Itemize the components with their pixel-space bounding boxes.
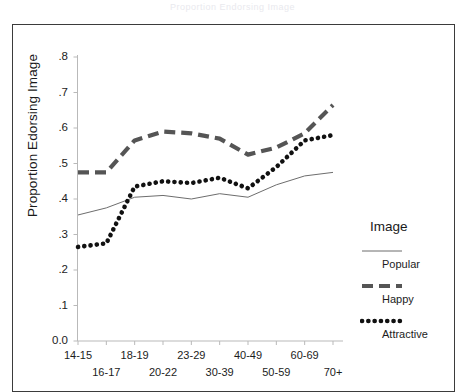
- x-axis-tick-label: 23-29: [168, 349, 214, 361]
- y-axis-tick-label: .5: [42, 157, 68, 169]
- x-axis-tick-label: 70+: [310, 366, 356, 378]
- y-axis-tick-label: .4: [42, 192, 68, 204]
- y-axis-tick-label: .2: [42, 263, 68, 275]
- x-axis-tick-label: 16-17: [83, 366, 129, 378]
- y-axis-tick-label: .8: [42, 50, 68, 62]
- x-axis-tick-label: 18-19: [112, 349, 158, 361]
- x-axis-tick-label: 20-22: [140, 366, 186, 378]
- y-axis-tick-label: .6: [42, 121, 68, 133]
- x-axis-tick-label: 14-15: [55, 349, 101, 361]
- x-axis-tick-label: 30-39: [197, 366, 243, 378]
- legend-title: Image: [370, 219, 408, 234]
- x-axis-tick-label: 40-49: [225, 349, 271, 361]
- x-axis-tick-label: 50-59: [253, 366, 299, 378]
- x-axis-tick-label: 60-69: [282, 349, 328, 361]
- legend-swatch: [360, 281, 404, 291]
- y-axis-tick-label: .3: [42, 228, 68, 240]
- legend-entry-label: Attractive: [382, 328, 428, 340]
- legend-swatch: [360, 316, 404, 326]
- legend-entry-label: Popular: [382, 258, 420, 270]
- y-axis-tick-label: .7: [42, 86, 68, 98]
- y-axis-tick-label: 0.0: [42, 334, 68, 346]
- y-axis-tick-label: .1: [42, 299, 68, 311]
- legend-swatch: [360, 246, 404, 256]
- legend-entry-label: Happy: [382, 293, 414, 305]
